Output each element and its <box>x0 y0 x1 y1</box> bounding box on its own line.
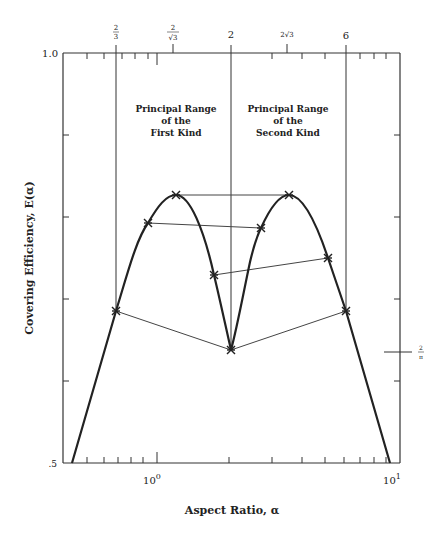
x-tick-label-10e0: 100 <box>143 472 161 486</box>
svg-text:Principal Range: Principal Range <box>135 104 216 114</box>
marker-star-icon <box>172 191 180 199</box>
covering-efficiency-chart: 1.0 .5 100 101 2 3 2 √3 2 2√3 6 2 π Prin… <box>0 0 441 533</box>
top-label-6: 6 <box>343 30 349 41</box>
top-label-2-sqrt3-den: √3 <box>169 34 178 42</box>
right-axis-ticks <box>394 135 400 381</box>
right-label-2pi-num: 2 <box>419 344 423 351</box>
top-label-2sqrt3: 2√3 <box>280 31 293 39</box>
marker-star-icon <box>257 224 265 232</box>
right-label-2pi-den: π <box>419 353 423 360</box>
x-tick-label-10e1: 101 <box>383 472 401 486</box>
y-tick-label-top: 1.0 <box>42 48 58 59</box>
svg-text:Second Kind: Second Kind <box>256 128 320 138</box>
region-second-kind-label: Principal Range of the Second Kind <box>247 104 328 138</box>
y-tick-label-bottom: .5 <box>48 459 57 469</box>
svg-text:of the: of the <box>161 116 191 126</box>
x-axis-title: Aspect Ratio, α <box>184 504 280 517</box>
y-axis-ticks <box>63 135 69 381</box>
x-axis-top-ticks <box>87 44 386 65</box>
svg-text:First Kind: First Kind <box>151 128 203 138</box>
top-label-2-3-num: 2 <box>114 24 118 32</box>
top-label-2: 2 <box>228 29 234 40</box>
top-label-2-sqrt3-num: 2 <box>171 24 175 32</box>
y-axis-title: Covering Efficiency, E(α) <box>23 181 36 334</box>
marker-star-icon <box>144 219 152 227</box>
svg-text:Principal Range: Principal Range <box>247 104 328 114</box>
region-first-kind-label: Principal Range of the First Kind <box>135 104 216 138</box>
x-axis-bottom-ticks <box>87 452 386 463</box>
top-label-2-3-den: 3 <box>114 33 118 41</box>
svg-text:of the: of the <box>273 116 303 126</box>
principal-range-dividers <box>116 45 346 350</box>
marker-star-icon <box>285 191 293 199</box>
